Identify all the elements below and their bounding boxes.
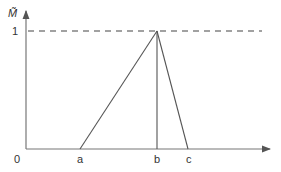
rising-edge — [80, 31, 157, 149]
membership-diagram: M̃ 1 0 a b c — [0, 0, 281, 172]
y-tick-one: 1 — [12, 25, 18, 37]
falling-edge — [157, 31, 188, 149]
origin-label: 0 — [14, 153, 20, 165]
x-label-a: a — [77, 153, 84, 165]
x-label-c: c — [186, 153, 192, 165]
y-axis-label: M̃ — [8, 7, 18, 19]
x-label-b: b — [154, 153, 160, 165]
